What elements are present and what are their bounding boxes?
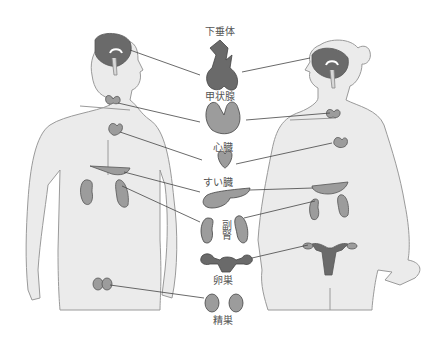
endocrine-diagram <box>0 0 440 345</box>
label-ovary: 卵巣 <box>213 276 233 286</box>
label-pituitary: 下垂体 <box>205 27 235 37</box>
pituitary-shape <box>207 40 238 90</box>
testis-right-shape <box>229 294 243 312</box>
pancreas-shape <box>203 188 250 208</box>
label-testis: 精巣 <box>213 316 233 326</box>
label-heart: 心臓 <box>213 143 233 153</box>
label-adrenal: 副腎 <box>220 220 230 240</box>
male-figure <box>26 39 177 310</box>
center-organs <box>201 40 253 312</box>
adrenal-left-shape <box>201 218 213 243</box>
label-thyroid: 甲状腺 <box>205 92 235 102</box>
adrenal-right-shape <box>235 216 248 243</box>
thyroid-shape <box>206 102 240 134</box>
heart-shape <box>218 151 232 168</box>
ovary-uterus-shape <box>201 254 253 272</box>
testis-left-shape <box>205 294 219 312</box>
label-pancreas: すい臓 <box>203 178 233 188</box>
female-figure <box>258 40 420 310</box>
